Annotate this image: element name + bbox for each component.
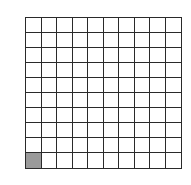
grid-cell xyxy=(119,138,135,153)
grid-cell xyxy=(104,138,120,153)
grid-cell xyxy=(166,123,182,138)
grid-cell xyxy=(88,153,104,168)
grid-cell xyxy=(26,78,42,93)
grid-cell xyxy=(135,93,151,108)
grid-cell xyxy=(88,18,104,33)
grid-cell xyxy=(104,78,120,93)
grid-cell xyxy=(119,33,135,48)
grid-cell xyxy=(88,138,104,153)
grid-cell xyxy=(150,18,166,33)
grid-cell xyxy=(57,93,73,108)
grid-cell xyxy=(57,153,73,168)
grid-cell xyxy=(166,18,182,33)
grid-cell xyxy=(104,153,120,168)
hundred-grid xyxy=(25,17,182,169)
grid-cell xyxy=(88,93,104,108)
grid-cell xyxy=(42,138,58,153)
grid-cell xyxy=(73,108,89,123)
grid-cell xyxy=(119,93,135,108)
grid-cell xyxy=(150,78,166,93)
grid-cell xyxy=(42,153,58,168)
grid-cell xyxy=(42,123,58,138)
grid-cell xyxy=(73,63,89,78)
grid-cell xyxy=(88,33,104,48)
grid-cell xyxy=(26,93,42,108)
grid-cell xyxy=(26,18,42,33)
grid-cell-shaded xyxy=(26,153,42,168)
grid-cell xyxy=(42,33,58,48)
grid-cell xyxy=(57,33,73,48)
grid-cell xyxy=(135,18,151,33)
grid-cell xyxy=(150,153,166,168)
grid-cell xyxy=(88,108,104,123)
grid-cell xyxy=(88,48,104,63)
grid-cell xyxy=(57,63,73,78)
grid-cell xyxy=(135,123,151,138)
grid-cell xyxy=(42,93,58,108)
grid-cell xyxy=(26,123,42,138)
grid-cell xyxy=(150,138,166,153)
grid-cell xyxy=(57,78,73,93)
grid-cell xyxy=(166,93,182,108)
grid-cell xyxy=(73,153,89,168)
grid-cell xyxy=(26,63,42,78)
grid-cell xyxy=(135,48,151,63)
grid-cell xyxy=(150,48,166,63)
grid-cell xyxy=(119,78,135,93)
grid-cell xyxy=(166,153,182,168)
grid-cell xyxy=(42,108,58,123)
grid-cell xyxy=(26,33,42,48)
grid-cell xyxy=(150,123,166,138)
grid-cell xyxy=(42,78,58,93)
grid-cell xyxy=(42,18,58,33)
grid-cell xyxy=(104,108,120,123)
grid-cell xyxy=(73,48,89,63)
grid-cell xyxy=(104,63,120,78)
grid-cell xyxy=(135,138,151,153)
grid-cell xyxy=(73,93,89,108)
grid-cell xyxy=(166,138,182,153)
grid-cell xyxy=(135,153,151,168)
grid-cell xyxy=(104,33,120,48)
grid-cell xyxy=(57,123,73,138)
grid-cell xyxy=(73,18,89,33)
grid-cell xyxy=(73,138,89,153)
grid-cell xyxy=(57,48,73,63)
grid-cell xyxy=(104,123,120,138)
grid-cell xyxy=(88,63,104,78)
grid-cell xyxy=(119,63,135,78)
grid-cell xyxy=(135,33,151,48)
grid-cell xyxy=(104,93,120,108)
grid-cell xyxy=(57,18,73,33)
grid-cell xyxy=(150,33,166,48)
grid-cell xyxy=(73,123,89,138)
grid-cell xyxy=(88,78,104,93)
grid-cell xyxy=(150,63,166,78)
grid-cell xyxy=(88,123,104,138)
grid-cell xyxy=(135,63,151,78)
grid-cell xyxy=(26,48,42,63)
grid-cell xyxy=(150,93,166,108)
grid-cell xyxy=(166,33,182,48)
grid-cell xyxy=(73,33,89,48)
grid-cell xyxy=(26,138,42,153)
grid-cell xyxy=(73,78,89,93)
grid-cell xyxy=(166,78,182,93)
grid-cell xyxy=(57,138,73,153)
grid-cell xyxy=(57,108,73,123)
grid-cell xyxy=(119,48,135,63)
grid-cell xyxy=(119,153,135,168)
grid-cell xyxy=(166,108,182,123)
grid-cell xyxy=(119,108,135,123)
grid-cell xyxy=(104,48,120,63)
grid-cell xyxy=(135,78,151,93)
grid-cell xyxy=(104,18,120,33)
grid-cell xyxy=(42,63,58,78)
grid-cell xyxy=(26,108,42,123)
grid-cell xyxy=(135,108,151,123)
grid-cell xyxy=(42,48,58,63)
grid-cell xyxy=(150,108,166,123)
grid-cell xyxy=(119,123,135,138)
grid-cell xyxy=(119,18,135,33)
grid-cell xyxy=(166,63,182,78)
